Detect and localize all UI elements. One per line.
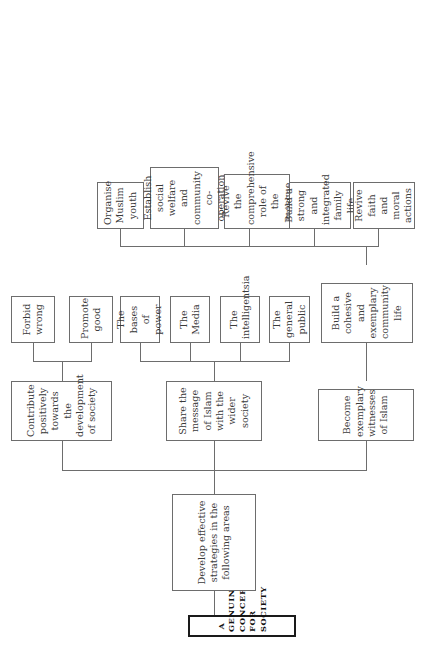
node-forbid-wrong[interactable]: Forbid wrong [11,296,55,343]
connector-root-to-level1 [214,591,215,615]
connector-to-general-public [289,343,290,362]
connector-to-bases-of-power [140,343,141,362]
node-root[interactable]: A GENUINE CONCERN FOR SOCIETY [188,615,296,637]
connector-trunk-to-share [214,441,215,471]
node-develop-strategies-label: Develop effective strategies in the foll… [196,498,233,587]
node-intelligentsia-label: The intelligentsia [228,300,253,339]
connector-trunk-to-contribute [62,441,63,471]
diagram-canvas: A GENUINE CONCERN FOR SOCIETY Develop ef… [0,0,428,651]
node-organise-muslim-youth[interactable]: Organise Muslim youth [97,182,144,229]
node-share-message-label: Share the message of Islam with the wide… [177,385,251,437]
connector-share-trunk [140,361,289,362]
node-share-message[interactable]: Share the message of Islam with the wide… [166,381,262,441]
node-forbid-wrong-label: Forbid wrong [21,300,46,339]
connector-share-out [214,362,215,381]
node-bases-of-power[interactable]: The bases of power [120,296,160,343]
node-social-welfare[interactable]: Establish social welfare and community c… [150,167,219,229]
connector-to-intelligentsia [240,343,241,362]
connector-to-social-welfare [184,229,185,247]
connector-level1-out [214,471,215,494]
node-bases-of-power-label: The bases of power [115,300,164,339]
connector-to-forbid-wrong [33,343,34,362]
connector-trunk-to-witness [366,441,367,471]
node-intelligentsia[interactable]: The intelligentsia [220,296,260,343]
node-contribute-positively[interactable]: Contribute positively towards the develo… [11,381,112,441]
node-develop-strategies[interactable]: Develop effective strategies in the foll… [172,494,256,591]
node-the-media[interactable]: The Media [170,296,210,343]
connector-to-family-life [314,229,315,247]
node-general-public[interactable]: The general public [269,296,310,343]
connector-contribute-out [62,362,63,381]
node-mosque-role[interactable]: Revive the comprehensive role of the mos… [224,174,290,229]
node-community-life-label: Build a cohesive and exemplary community… [330,287,404,339]
node-contribute-positively-label: Contribute positively towards the develo… [25,385,99,437]
connector-witness-to-community [366,343,367,381]
node-root-label: A GENUINE CONCERN FOR SOCIETY [216,620,269,632]
connector-to-organise-youth [120,229,121,247]
node-promote-good-label: Promote good [79,300,104,339]
connector-to-media [190,343,191,362]
connector-to-mosque-role [249,229,250,247]
node-general-public-label: The general public [271,300,308,339]
node-social-welfare-label: Establish social welfare and community c… [142,171,228,225]
node-exemplary-witnesses-label: Become exemplary witnesses of Islam [341,393,390,437]
node-faith-moral-actions[interactable]: Revive faith and moral actions [353,182,415,229]
node-promote-good[interactable]: Promote good [69,296,113,343]
connector-contribute-trunk [33,361,91,362]
node-the-media-label: The Media [178,300,203,339]
node-exemplary-witnesses[interactable]: Become exemplary witnesses of Islam [318,389,414,441]
node-organise-muslim-youth-label: Organise Muslim youth [102,186,139,225]
node-community-life[interactable]: Build a cohesive and exemplary community… [321,283,413,343]
connector-community-out [366,247,367,265]
diagram-stage: A GENUINE CONCERN FOR SOCIETY Develop ef… [0,0,428,651]
node-family-life[interactable]: Build a strong and integrated family lif… [289,182,351,229]
node-family-life-label: Build a strong and integrated family lif… [283,186,357,225]
connector-to-faith-moral [378,229,379,247]
connector-to-promote-good [91,343,92,362]
node-faith-moral-actions-label: Revive faith and moral actions [353,186,414,225]
